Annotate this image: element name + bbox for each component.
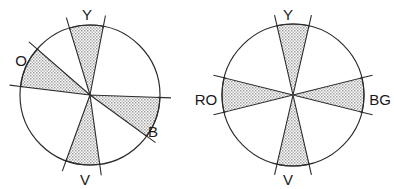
label-v: V — [283, 171, 293, 188]
label-bg: BG — [369, 91, 391, 108]
label-b: B — [148, 123, 158, 140]
hue-circle-figure: YOBV YROBGV — [0, 0, 394, 189]
label-v: V — [80, 171, 90, 188]
label-ro: RO — [195, 91, 218, 108]
label-o: O — [15, 52, 27, 69]
label-y: Y — [82, 6, 92, 23]
label-y: Y — [283, 6, 293, 23]
